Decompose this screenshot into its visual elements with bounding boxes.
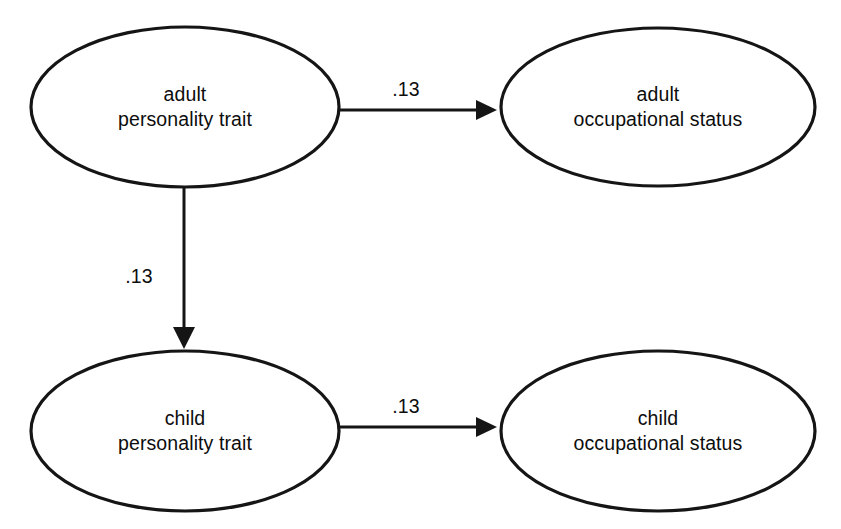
- edge-child-trait-to-child-status[interactable]: [340, 417, 497, 437]
- edge-adult-trait-to-child-trait[interactable]: [173, 187, 195, 349]
- arrowhead-icon-adult-trait-to-adult-status: [476, 100, 497, 120]
- arrowhead-icon-child-trait-to-child-status: [476, 417, 497, 437]
- node-ellipse-child-occupational-status[interactable]: [501, 351, 815, 511]
- path-diagram-canvas: adult personality trait adult occupation…: [0, 0, 841, 529]
- node-ellipse-child-personality-trait[interactable]: [31, 351, 339, 511]
- edge-adult-trait-to-adult-status[interactable]: [340, 100, 497, 120]
- node-ellipse-adult-personality-trait[interactable]: [31, 27, 339, 187]
- arrowhead-icon-adult-trait-to-child-trait: [173, 327, 195, 349]
- node-ellipse-adult-occupational-status[interactable]: [501, 28, 815, 186]
- diagram-graphics-layer: [0, 0, 841, 529]
